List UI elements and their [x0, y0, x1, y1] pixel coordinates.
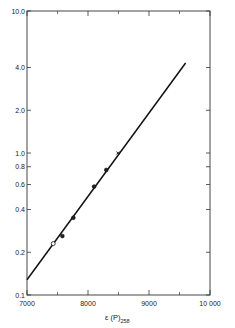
data-point-filled: [104, 168, 108, 172]
chart: 70008000900010 000 0.10.20.40.60.81.02.0…: [0, 0, 235, 328]
y-tick-label: 10.0: [11, 8, 25, 15]
data-point-filled: [92, 185, 96, 189]
x-tick-label: 9000: [141, 300, 157, 307]
data-point-open: [51, 242, 55, 246]
y-tick-label: 0.2: [15, 249, 25, 256]
y-tick-label: 2.0: [15, 107, 25, 114]
x-tick-label: 8000: [80, 300, 96, 307]
y-tick-label: 0.8: [15, 163, 25, 170]
data-point-filled: [60, 234, 64, 238]
x-axis-title: ε (P)258: [105, 313, 130, 324]
y-tick-label: 0.1: [15, 292, 25, 299]
x-tick-label: 10 000: [199, 300, 221, 307]
y-tick-label: 1.0: [15, 150, 25, 157]
y-tick-label: 4.0: [15, 64, 25, 71]
y-tick-label: 0.4: [15, 206, 25, 213]
data-point-filled: [71, 216, 75, 220]
x-axis: 70008000900010 000: [19, 11, 221, 307]
y-axis: 0.10.20.40.60.81.02.04.010.0: [11, 8, 210, 299]
x-tick-label: 7000: [19, 300, 35, 307]
y-tick-label: 0.6: [15, 181, 25, 188]
data-series: [27, 63, 186, 280]
